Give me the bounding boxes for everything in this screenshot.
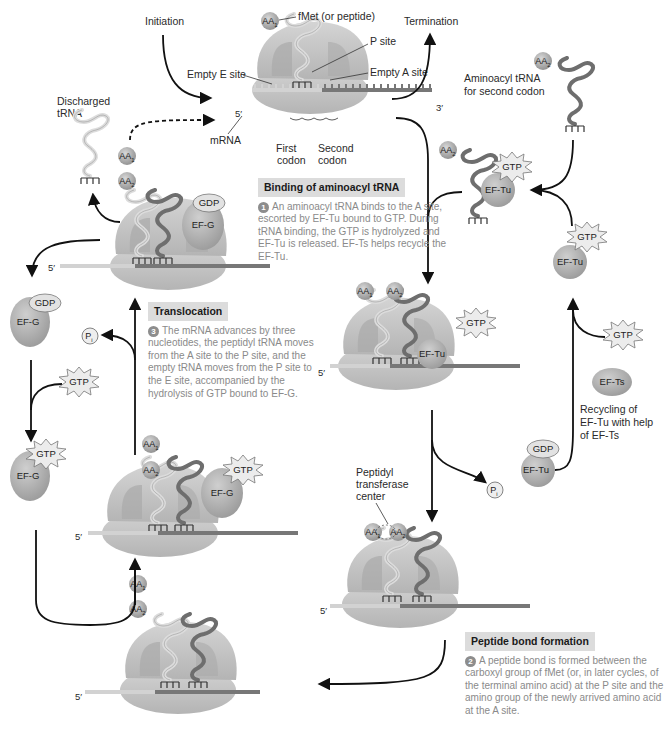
label-p-site: P site <box>370 35 396 47</box>
label-aminoacyl-1: Aminoacyl tRNA <box>464 72 540 84</box>
gdp-eftu: GDP <box>533 443 554 454</box>
step-3-number: 3 <box>148 326 159 337</box>
label-3prime: 3′ <box>436 102 443 113</box>
step-1-number: 1 <box>258 202 269 213</box>
initiation-arrow <box>163 35 210 98</box>
label-first-codon-2: codon <box>277 154 306 166</box>
step-2-text: A peptide bond is formed between the car… <box>465 655 663 716</box>
label-first-codon-1: First <box>276 142 296 154</box>
ribosome-peptide-bond <box>330 523 530 628</box>
label-peptidyl-3: center <box>356 490 386 502</box>
step-2-title: Peptide bond formation <box>465 632 595 651</box>
ribosome-initiation <box>252 12 432 114</box>
label-recycling-1: Recycling of <box>580 403 637 415</box>
gtp-step1: GTP <box>466 317 486 328</box>
dashed-recycle-arrow <box>130 120 213 140</box>
gtp-step3: GTP <box>233 464 253 475</box>
ribosome-post-translocation: EF-G GDP <box>60 147 270 290</box>
ribosome-bottom <box>85 575 260 714</box>
ef-g-step3: EF-G <box>211 487 234 498</box>
gdp-ef-g-top: GDP <box>199 197 220 208</box>
label-recycling-2: EF-Tu with help <box>580 416 653 428</box>
label-discharged-1: Discharged <box>57 95 110 107</box>
ribosome-binding: EF-Tu GTP <box>330 282 520 390</box>
gtp-complex: GTP <box>502 161 522 172</box>
ef-tu-gdp: EF-Tu <box>523 464 549 475</box>
ef-tu-step1: EF-Tu <box>419 348 445 359</box>
translation-elongation-diagram: AA1 fMet (or peptide) P site Empty E sit… <box>0 0 666 734</box>
label-fmet: fMet (or peptide) <box>298 10 375 22</box>
label-peptidyl-1: Peptidyl <box>356 466 393 478</box>
ef-tu-complex: EF-Tu <box>485 184 511 195</box>
ef-ts: EF-Ts <box>600 376 625 387</box>
step-2-number: 2 <box>465 656 476 667</box>
label-mrna: mRNA <box>210 134 241 146</box>
ef-g-top: EF-G <box>192 219 215 230</box>
ef-g-left-gtp: EF-G <box>17 470 40 481</box>
label-initiation: Initiation <box>145 15 184 27</box>
label-recycling-3: of EF-Ts <box>580 429 619 441</box>
gtp-recycling: GTP <box>613 329 633 340</box>
label-5prime-bottom: 5′ <box>75 691 82 702</box>
label-5prime-step3: 5′ <box>75 531 82 542</box>
gtp-left-bound: GTP <box>36 448 56 459</box>
step-1-binding: Binding of aminoacyl tRNA 1An aminoacyl … <box>258 178 448 264</box>
label-5prime-top-left: 5′ <box>48 262 55 273</box>
gdp-left: GDP <box>35 297 56 308</box>
label-empty-a-site: Empty A site <box>370 66 428 78</box>
label-peptidyl-2: transferase <box>356 478 409 490</box>
step-3-text: The mRNA advances by three nucleotides, … <box>148 325 314 399</box>
label-empty-e-site: Empty E site <box>187 68 246 80</box>
ribosome-translocation: EF-G GTP <box>88 435 298 557</box>
label-second-codon-2: codon <box>318 154 347 166</box>
step-3-translocation: Translocation 3The mRNA advances by thre… <box>148 302 323 400</box>
ef-g-left-gdp: EF-G <box>17 316 40 327</box>
gtp-eftu: GTP <box>577 231 597 242</box>
label-aminoacyl-2: for second codon <box>464 85 545 97</box>
step-1-text: An aminoacyl tRNA binds to the A site, e… <box>258 201 446 262</box>
ef-tu-gtp: EF-Tu <box>557 256 583 267</box>
gtp-left-free: GTP <box>69 376 89 387</box>
label-second-codon-1: Second <box>318 142 354 154</box>
step-2-peptide-bond: Peptide bond formation 2A peptide bond i… <box>465 632 665 718</box>
step-1-title: Binding of aminoacyl tRNA <box>258 178 405 197</box>
step-3-title: Translocation <box>148 302 228 321</box>
label-5prime-step2: 5′ <box>320 605 327 616</box>
label-termination: Termination <box>404 15 458 27</box>
